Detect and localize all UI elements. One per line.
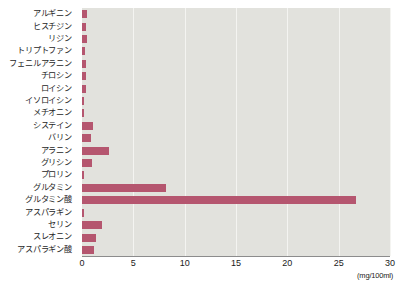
category-label: セリン (0, 219, 76, 231)
x-axis-line (82, 256, 390, 257)
category-label: メチオニン (0, 107, 76, 119)
bar-slot (82, 107, 390, 119)
category-label: システイン (0, 120, 76, 132)
bar-slot (82, 132, 390, 144)
bar (82, 246, 94, 254)
bar (82, 134, 91, 142)
bar (82, 221, 102, 229)
category-label: グルタミン (0, 182, 76, 194)
bar-slot (82, 120, 390, 132)
category-label: ヒスチジン (0, 20, 76, 32)
category-label: アラニン (0, 144, 76, 156)
bar (82, 159, 92, 167)
bar-slot (82, 207, 390, 219)
bar-series (82, 8, 390, 256)
bar-slot (82, 231, 390, 243)
bar-slot (82, 244, 390, 256)
bar (82, 147, 109, 155)
bar (82, 184, 166, 192)
category-label: トリプトファン (0, 45, 76, 57)
bar-slot (82, 20, 390, 32)
bar (82, 209, 84, 217)
x-tick-label: 15 (231, 259, 241, 268)
bar (82, 97, 84, 105)
bar-slot (82, 58, 390, 70)
plot-area (82, 8, 390, 256)
bar-slot (82, 82, 390, 94)
bar (82, 10, 87, 18)
bar-slot (82, 144, 390, 156)
bar-slot (82, 45, 390, 57)
x-tick-label: 0 (79, 259, 84, 268)
category-label: イソロイシン (0, 95, 76, 107)
bar-slot (82, 182, 390, 194)
bar-slot (82, 194, 390, 206)
bar (82, 196, 356, 204)
x-axis-unit-label: (mg/100ml) (357, 272, 393, 280)
bar (82, 85, 86, 93)
bar (82, 122, 93, 130)
amino-acid-bar-chart: アルギニンヒスチジンリジントリプトファンフェニルアラニンチロシンロイシンイソロイ… (0, 0, 405, 288)
bar-slot (82, 219, 390, 231)
category-label: フェニルアラニン (0, 58, 76, 70)
bar (82, 60, 86, 68)
bar (82, 109, 84, 117)
bar-slot (82, 157, 390, 169)
category-label: アスパラギン酸 (0, 244, 76, 256)
bar (82, 234, 96, 242)
x-tick-label: 20 (282, 259, 292, 268)
bar-slot (82, 8, 390, 20)
bar (82, 72, 86, 80)
category-label: アルギニン (0, 8, 76, 20)
bar (82, 35, 87, 43)
bar (82, 47, 85, 55)
category-label: リジン (0, 33, 76, 45)
bar-slot (82, 33, 390, 45)
x-tick-label: 10 (180, 259, 190, 268)
gridline (390, 8, 391, 256)
x-tick-label: 30 (385, 259, 395, 268)
bar (82, 171, 84, 179)
category-label: プロリン (0, 169, 76, 181)
bar-slot (82, 95, 390, 107)
category-axis-labels: アルギニンヒスチジンリジントリプトファンフェニルアラニンチロシンロイシンイソロイ… (0, 8, 76, 256)
category-label: チロシン (0, 70, 76, 82)
category-label: グリシン (0, 157, 76, 169)
bar-slot (82, 70, 390, 82)
bar (82, 23, 86, 31)
bar-slot (82, 169, 390, 181)
category-label: スレオニン (0, 231, 76, 243)
x-tick-label: 5 (131, 259, 136, 268)
category-label: ロイシン (0, 82, 76, 94)
x-axis-tick-labels: 051015202530 (0, 259, 405, 273)
category-label: グルタミン酸 (0, 194, 76, 206)
x-tick-label: 25 (334, 259, 344, 268)
category-label: バリン (0, 132, 76, 144)
category-label: アスパラギン (0, 207, 76, 219)
